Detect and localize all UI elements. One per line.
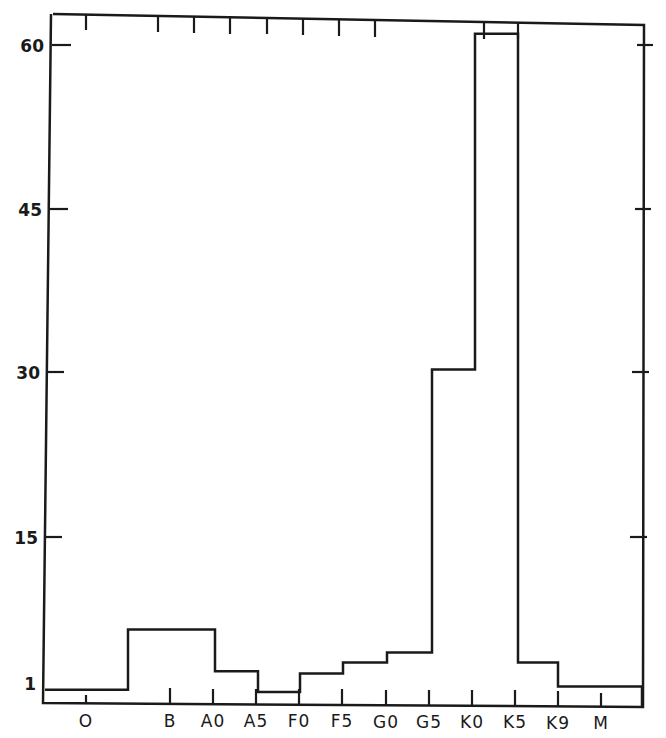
histogram-step-line xyxy=(45,34,642,706)
y-axis-labels: 60 45 30 15 1 xyxy=(14,36,44,694)
x-label-G5: G5 xyxy=(416,712,442,732)
x-label-K9: K9 xyxy=(546,713,570,733)
x-label-O: O xyxy=(79,711,93,731)
x-label-K0: K0 xyxy=(460,712,484,732)
plot-frame xyxy=(43,14,644,707)
x-label-M: M xyxy=(593,713,609,733)
x-label-A5: A5 xyxy=(244,711,268,731)
y-label-15: 15 xyxy=(14,528,38,548)
y-axis-right-ticks xyxy=(630,45,653,537)
y-label-1: 1 xyxy=(24,674,36,694)
y-label-60: 60 xyxy=(20,36,44,56)
x-label-K5: K5 xyxy=(503,712,527,732)
x-axis-labels: O B A0 A5 F0 F5 G0 G5 K0 K5 K9 M xyxy=(79,711,609,733)
x-label-B: B xyxy=(164,711,177,731)
x-label-F0: F0 xyxy=(288,711,311,731)
x-label-G0: G0 xyxy=(373,712,399,732)
histogram-chart: 60 45 30 15 1 O B A0 A5 F xyxy=(0,0,666,738)
x-label-F5: F5 xyxy=(331,711,354,731)
y-label-45: 45 xyxy=(18,200,42,220)
y-label-30: 30 xyxy=(16,363,40,383)
x-label-A0: A0 xyxy=(201,711,225,731)
x-axis-top-ticks xyxy=(86,15,518,39)
